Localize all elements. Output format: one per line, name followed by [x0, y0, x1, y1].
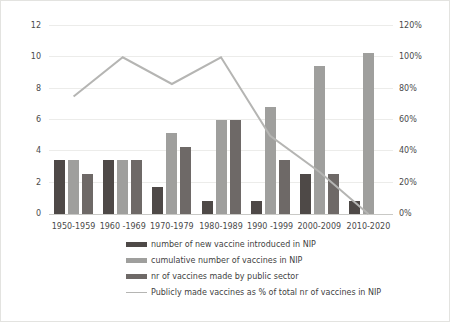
y-axis-left-tick: 8	[11, 85, 41, 93]
plot-area	[49, 26, 393, 214]
trend-line	[49, 26, 393, 214]
y-axis-right-tick: 80%	[399, 85, 439, 93]
legend-label: nr of vaccines made by public sector	[151, 272, 299, 281]
y-axis-right-tick: 20%	[399, 179, 439, 187]
legend-label: number of new vaccine introduced in NIP	[151, 240, 316, 249]
y-axis-left-tick: 12	[11, 22, 41, 30]
legend-item: cumulative number of vaccines in NIP	[126, 252, 381, 268]
legend-bar-swatch	[126, 258, 147, 263]
y-axis-right-tick: 120%	[399, 22, 439, 30]
y-axis-left-tick: 10	[11, 53, 41, 61]
legend-line-swatch	[126, 292, 147, 293]
x-axis-label: 2010-2020	[338, 222, 398, 231]
y-axis-left-tick: 2	[11, 179, 41, 187]
legend-bar-swatch	[126, 242, 147, 247]
legend-item: Publicly made vaccines as % of total nr …	[126, 284, 381, 300]
legend-item: number of new vaccine introduced in NIP	[126, 236, 381, 252]
legend-item: nr of vaccines made by public sector	[126, 268, 381, 284]
y-axis-right-tick: 100%	[399, 53, 439, 61]
y-axis-left-tick: 4	[11, 147, 41, 155]
y-axis-right-tick: 60%	[399, 116, 439, 124]
y-axis-right-tick: 0%	[399, 210, 439, 218]
percent-line	[74, 57, 369, 214]
legend: number of new vaccine introduced in NIPc…	[126, 236, 381, 300]
y-axis-left-tick: 6	[11, 116, 41, 124]
y-axis-left-tick: 0	[11, 210, 41, 218]
legend-label: Publicly made vaccines as % of total nr …	[151, 288, 381, 297]
legend-bar-swatch	[126, 274, 147, 279]
x-axis-line	[49, 214, 393, 215]
legend-label: cumulative number of vaccines in NIP	[151, 256, 302, 265]
y-axis-right-tick: 40%	[399, 147, 439, 155]
vaccine-chart-figure: 024681012 0%20%40%60%80%100%120% 1950-19…	[0, 0, 450, 322]
